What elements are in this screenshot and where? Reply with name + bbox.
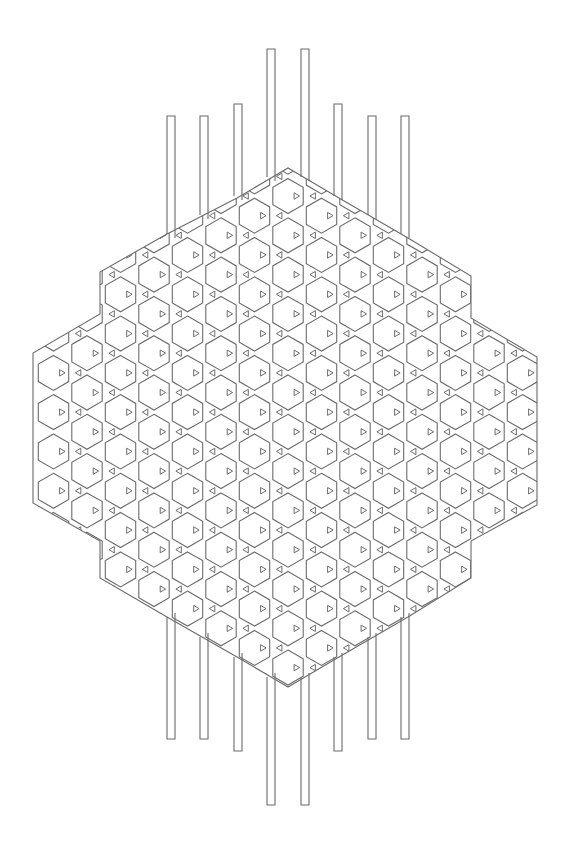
triangle-cell [109, 507, 114, 513]
triangle-cell [109, 429, 114, 435]
hexagon-cell [72, 650, 102, 685]
triangle-cell [243, 468, 248, 474]
triangle-cell [395, 409, 401, 416]
hexagon-cell [105, 709, 135, 744]
triangle-cell [477, 134, 483, 141]
triangle-cell [529, 723, 535, 730]
hexagon-cell [440, 120, 470, 155]
hexagon-cell [373, 120, 403, 155]
hexagon-cell [507, 552, 537, 587]
triangle-cell [444, 350, 450, 356]
triangle-cell [328, 370, 334, 377]
triangle-cell [328, 409, 334, 416]
triangle-cell [462, 212, 468, 219]
triangle-cell [294, 389, 300, 395]
triangle-cell [243, 625, 248, 631]
triangle-cell [377, 389, 383, 395]
triangle-cell [410, 723, 416, 730]
hexagon-cell [507, 316, 537, 351]
triangle-cell [511, 232, 517, 238]
triangle-cell [160, 743, 165, 749]
triangle-cell [243, 586, 248, 592]
hexagon-cell [507, 198, 537, 233]
triangle-cell [495, 350, 501, 356]
hexagon-cell [373, 630, 403, 665]
triangle-cell [544, 488, 550, 495]
hexagon-cell [340, 729, 370, 764]
triangle-cell [477, 330, 483, 337]
triangle-cell [529, 448, 535, 455]
triangle-cell [294, 507, 300, 513]
triangle-cell [243, 114, 248, 120]
triangle-cell [377, 114, 383, 120]
triangle-cell [410, 488, 416, 495]
triangle-cell [361, 154, 367, 160]
triangle-cell [377, 586, 383, 592]
triangle-cell [176, 429, 181, 435]
top-strip [234, 104, 242, 200]
hexagon-cell [373, 709, 403, 744]
hexagon-cell [38, 198, 68, 233]
triangle-cell [511, 114, 517, 120]
triangle-cell [477, 684, 483, 691]
triangle-cell [109, 704, 114, 710]
triangle-cell [477, 723, 483, 730]
triangle-cell [261, 763, 267, 770]
triangle-cell [93, 664, 98, 670]
triangle-cell [142, 134, 147, 141]
triangle-cell [495, 389, 501, 395]
triangle-cell [93, 468, 98, 474]
triangle-cell [310, 664, 316, 670]
triangle-cell [343, 763, 349, 770]
triangle-cell [343, 684, 349, 691]
triangle-cell [60, 605, 66, 612]
triangle-cell [294, 625, 300, 631]
triangle-cell [410, 645, 416, 652]
triangle-cell [428, 586, 434, 592]
hexagon-cell [373, 198, 403, 233]
triangle-cell [477, 252, 483, 259]
triangle-cell [176, 193, 181, 199]
triangle-cell [261, 448, 267, 455]
triangle-cell [477, 763, 483, 770]
triangle-cell [294, 743, 300, 749]
triangle-cell [428, 547, 434, 553]
triangle-cell [194, 173, 199, 180]
hexagon-cell [206, 689, 236, 724]
triangle-cell [444, 429, 450, 435]
triangle-cell [511, 547, 517, 553]
triangle-cell [428, 154, 434, 160]
triangle-cell [511, 704, 517, 710]
triangle-cell [544, 409, 550, 416]
triangle-cell [428, 664, 434, 670]
triangle-cell [529, 291, 535, 298]
top-strip [200, 116, 208, 219]
triangle-cell [477, 605, 483, 612]
triangle-cell [495, 468, 501, 474]
hexagon-cell [206, 179, 236, 214]
triangle-cell [243, 232, 248, 238]
triangle-cell [60, 409, 66, 416]
triangle-cell [227, 154, 232, 160]
triangle-cell [410, 173, 416, 180]
hexagon-cell [139, 729, 169, 764]
triangle-cell [60, 566, 66, 573]
triangle-cell [93, 389, 98, 395]
triangle-cell [142, 527, 147, 534]
triangle-cell [462, 330, 468, 337]
triangle-cell [60, 645, 66, 652]
hexagon-cell [407, 139, 437, 174]
hexagon-cell [105, 120, 135, 155]
triangle-cell [462, 488, 468, 495]
triangle-cell [294, 311, 300, 317]
triangle-cell [462, 723, 468, 730]
hexagon-cell [507, 159, 537, 194]
triangle-cell [209, 370, 214, 377]
triangle-cell [160, 154, 165, 160]
triangle-cell [243, 154, 248, 160]
hexagon-cell [239, 709, 269, 744]
triangle-cell [60, 488, 66, 495]
triangle-cell [361, 193, 367, 199]
triangle-cell [495, 507, 501, 513]
triangle-cell [395, 605, 401, 612]
